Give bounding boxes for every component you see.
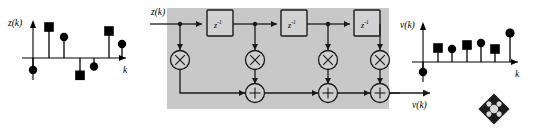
block-diagram-canvas: z-1 z-1 z-1	[150, 0, 400, 128]
circle-marker	[90, 62, 98, 70]
adder-2	[319, 84, 338, 103]
diagram-input-label: z(k)	[150, 7, 165, 18]
input-x-axis	[22, 55, 126, 61]
figure-root: z(k) k	[0, 0, 536, 128]
circle-marker	[118, 40, 126, 48]
square-marker	[433, 43, 443, 53]
input-plot-canvas: z(k) k	[0, 0, 160, 128]
square-marker	[75, 71, 85, 81]
input-stem-plot: z(k) k	[0, 0, 160, 128]
output-stem-plot: v(k) k	[400, 0, 536, 128]
circle-marker	[419, 68, 427, 76]
square-marker	[490, 44, 500, 54]
multiplier-3	[319, 51, 338, 70]
output-axis-label: k	[515, 69, 520, 79]
square-marker	[462, 40, 472, 50]
multiplier-2	[246, 51, 265, 70]
output-stem-series	[419, 28, 515, 76]
diamond-logo	[477, 92, 511, 126]
input-axis-label: k	[123, 65, 128, 75]
circle-marker	[448, 45, 456, 53]
multiplier-output-wires	[180, 70, 380, 94]
adder-3	[371, 84, 390, 103]
circle-marker	[60, 33, 68, 41]
delay-block-1: z-1	[207, 10, 233, 36]
circle-marker	[505, 28, 514, 37]
multiplier-4	[371, 51, 390, 70]
square-marker	[44, 22, 54, 32]
output-signal-label: v(k)	[400, 20, 415, 31]
delay-block-3: z-1	[354, 10, 380, 36]
circle-marker	[477, 39, 485, 47]
input-stem-series	[29, 22, 126, 80]
circle-marker	[29, 66, 37, 74]
input-signal-label: z(k)	[7, 18, 22, 29]
delay-block-2: z-1	[281, 10, 307, 36]
output-plot-canvas: v(k) k	[400, 0, 536, 128]
square-marker	[104, 26, 114, 36]
fir-filter-block-diagram: z-1 z-1 z-1	[150, 0, 400, 128]
output-x-axis	[412, 59, 518, 65]
adder-1	[246, 84, 265, 103]
multiplier-1	[171, 51, 190, 70]
